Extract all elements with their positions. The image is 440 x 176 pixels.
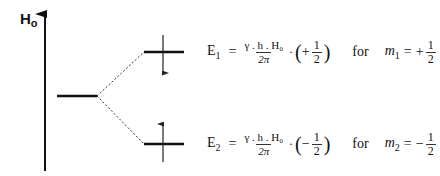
m1-sign: + bbox=[416, 44, 424, 60]
split-line-lower bbox=[97, 96, 144, 144]
e2-label: E2 bbox=[207, 135, 221, 153]
m1-symbol: m bbox=[385, 43, 395, 58]
m1-fraction: 1 2 bbox=[426, 39, 436, 66]
e1-half-den: 2 bbox=[312, 52, 322, 66]
e2-denominator: 2π bbox=[256, 144, 271, 158]
e1-half: 1 2 bbox=[312, 39, 322, 66]
m2-sign: − bbox=[416, 136, 424, 152]
e2-close-paren: ) bbox=[324, 134, 331, 154]
axis-label-subscript: o bbox=[31, 17, 38, 29]
split-line-upper bbox=[97, 52, 144, 96]
e1-fraction: γ . h . H₀ 2π bbox=[242, 39, 285, 66]
equation-e2: E2 = γ . h . H₀ 2π · ( − 1 2 ) for m2 = … bbox=[207, 124, 438, 164]
e1-equals: = bbox=[229, 44, 237, 60]
e1-half-num: 1 bbox=[312, 39, 322, 52]
m2-den: 2 bbox=[426, 144, 436, 158]
e1-sign: + bbox=[302, 44, 310, 60]
m1-equals: = bbox=[404, 44, 412, 60]
e1-symbol: E bbox=[207, 43, 216, 58]
axis-label-h: H bbox=[20, 10, 31, 27]
equation-e1: E1 = γ . h . H₀ 2π · ( + 1 2 ) for m1 = … bbox=[207, 32, 438, 72]
e1-denominator: 2π bbox=[256, 52, 271, 66]
m2-fraction: 1 2 bbox=[426, 131, 436, 158]
e1-close-paren: ) bbox=[324, 42, 331, 62]
m2-label: m2 bbox=[385, 135, 400, 153]
e2-half-den: 2 bbox=[312, 144, 322, 158]
e2-symbol: E bbox=[207, 135, 216, 150]
e1-for: for bbox=[352, 44, 368, 60]
e1-label: E1 bbox=[207, 43, 221, 61]
m2-index: 2 bbox=[395, 142, 400, 153]
e1-open-paren: ( bbox=[295, 42, 302, 62]
field-axis-label: Ho bbox=[20, 10, 38, 29]
e2-open-paren: ( bbox=[295, 134, 302, 154]
e1-index: 1 bbox=[216, 50, 221, 61]
m2-symbol: m bbox=[385, 135, 395, 150]
e2-fraction: γ . h . H₀ 2π bbox=[242, 131, 285, 158]
e2-index: 2 bbox=[216, 142, 221, 153]
m1-index: 1 bbox=[395, 50, 400, 61]
e2-half: 1 2 bbox=[312, 131, 322, 158]
m2-num: 1 bbox=[426, 131, 436, 144]
m2-equals: = bbox=[404, 136, 412, 152]
m1-den: 2 bbox=[426, 52, 436, 66]
e1-numerator: γ . h . H₀ bbox=[242, 39, 285, 52]
e2-equals: = bbox=[229, 136, 237, 152]
e2-numerator: γ . h . H₀ bbox=[242, 131, 285, 144]
e2-for: for bbox=[352, 136, 368, 152]
e2-sign: − bbox=[302, 136, 310, 152]
e2-half-num: 1 bbox=[312, 131, 322, 144]
e1-dot: · bbox=[289, 45, 293, 60]
e2-dot: · bbox=[289, 137, 293, 152]
m1-num: 1 bbox=[426, 39, 436, 52]
m1-label: m1 bbox=[385, 43, 400, 61]
